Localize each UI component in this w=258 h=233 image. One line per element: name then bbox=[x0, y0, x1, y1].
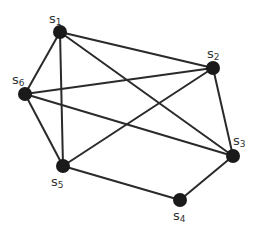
label-subscript: 5 bbox=[58, 180, 64, 190]
node-label-s2: s2 bbox=[207, 47, 220, 62]
label-subscript: 2 bbox=[214, 52, 220, 62]
edge-s5-s2 bbox=[63, 68, 213, 166]
node-label-s4: s4 bbox=[173, 209, 186, 224]
edge-s1-s5 bbox=[60, 32, 63, 166]
label-subscript: 6 bbox=[19, 78, 25, 88]
node-s1 bbox=[53, 25, 67, 39]
label-base: s bbox=[51, 174, 58, 189]
edge-s6-s2 bbox=[25, 68, 213, 94]
node-s2 bbox=[206, 61, 220, 75]
label-base: s bbox=[12, 72, 19, 87]
label-base: s bbox=[233, 133, 240, 148]
node-label-s3: s3 bbox=[233, 134, 246, 149]
node-s5 bbox=[56, 159, 70, 173]
label-base: s bbox=[207, 46, 214, 61]
edge-s6-s5 bbox=[25, 94, 63, 166]
edge-s1-s6 bbox=[25, 32, 60, 94]
graph-canvas bbox=[0, 0, 258, 233]
graph-diagram: s1s2s3s4s5s6 bbox=[0, 0, 258, 233]
node-s4 bbox=[173, 193, 187, 207]
node-label-s6: s6 bbox=[12, 73, 25, 88]
edge-s6-s3 bbox=[25, 94, 233, 156]
edge-s5-s4 bbox=[63, 166, 180, 200]
label-subscript: 1 bbox=[56, 17, 62, 27]
label-base: s bbox=[173, 208, 180, 223]
node-label-s1: s1 bbox=[49, 12, 62, 27]
label-subscript: 4 bbox=[180, 214, 186, 224]
node-s6 bbox=[18, 87, 32, 101]
edge-s1-s2 bbox=[60, 32, 213, 68]
label-base: s bbox=[49, 11, 56, 26]
edge-s4-s3 bbox=[180, 156, 233, 200]
node-s3 bbox=[226, 149, 240, 163]
node-label-s5: s5 bbox=[51, 175, 64, 190]
label-subscript: 3 bbox=[240, 139, 246, 149]
